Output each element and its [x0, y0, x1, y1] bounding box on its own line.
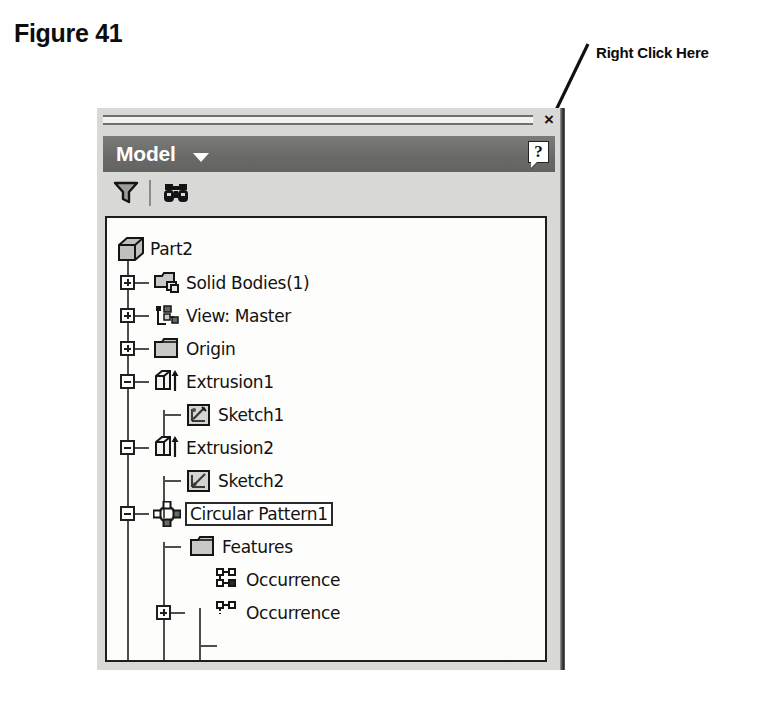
panel-title: Model: [116, 142, 176, 166]
tree-item-occurrence-1[interactable]: Occurrence: [215, 563, 340, 596]
tree-item-view-master[interactable]: View: Master: [153, 299, 291, 332]
tree-connector: [163, 480, 181, 482]
tree-item-origin[interactable]: Origin: [153, 332, 236, 365]
close-icon[interactable]: ×: [541, 112, 557, 128]
expander-extrusion1[interactable]: [120, 374, 135, 389]
tree-connector: [199, 645, 217, 647]
figure-caption: Figure 41: [14, 19, 122, 48]
model-tree-panel: × Model ?: [97, 108, 565, 670]
tree-item-label: Sketch1: [218, 405, 284, 425]
tree-item-occurrence-2[interactable]: Occurrence: [215, 596, 340, 629]
tree-connector: [135, 447, 149, 449]
tree-connector: [135, 348, 149, 350]
tree-item-label: View: Master: [186, 306, 291, 326]
circular-pattern-icon: [153, 501, 181, 527]
tree-item-label: Solid Bodies(1): [186, 273, 309, 293]
tree-connector: [163, 546, 181, 548]
view-master-icon: [153, 303, 181, 329]
tree-item-solid-bodies[interactable]: Solid Bodies(1): [153, 266, 309, 299]
tree-item-circular-pattern1[interactable]: Circular Pattern1: [153, 497, 333, 530]
part-cube-icon: [117, 236, 145, 262]
expander-view-master[interactable]: [120, 308, 135, 323]
extrusion-icon: [153, 435, 181, 461]
tree-connector: [135, 282, 149, 284]
folder-icon: [189, 534, 217, 560]
tree-item-label: Extrusion1: [186, 372, 274, 392]
tree-item-extrusion2[interactable]: Extrusion2: [153, 431, 274, 464]
tree-connector: [171, 612, 185, 614]
occurrence-icon: [215, 600, 241, 626]
tree-connector: [135, 381, 149, 383]
binoculars-icon[interactable]: [161, 178, 191, 208]
expander-solid-bodies[interactable]: [120, 275, 135, 290]
panel-grip-bar[interactable]: [103, 115, 533, 125]
tree-connector: [135, 315, 149, 317]
model-title-bar[interactable]: Model ?: [103, 136, 555, 172]
toolbar-divider: [149, 180, 151, 206]
tree-item-label: Sketch2: [218, 471, 284, 491]
callout-label-right-click-here: Right Click Here: [596, 44, 709, 61]
tree-connector: [135, 513, 149, 515]
chevron-down-icon[interactable]: [193, 153, 209, 162]
panel-toolbar: [103, 174, 555, 212]
tree-item-sketch1[interactable]: Sketch1: [185, 398, 284, 431]
tree-item-label: Part2: [150, 239, 193, 259]
feature-tree[interactable]: Part2 Solid Bodies(1): [105, 216, 547, 662]
sketch-icon: [185, 402, 213, 428]
page-bottom-margin: [0, 670, 767, 706]
tree-connector: [163, 414, 181, 416]
sketch-icon: [185, 468, 213, 494]
expander-origin[interactable]: [120, 341, 135, 356]
feature-tree-inner: Part2 Solid Bodies(1): [107, 218, 545, 660]
expander-extrusion2[interactable]: [120, 440, 135, 455]
tree-item-part2[interactable]: Part2: [117, 232, 193, 265]
tree-item-label-selected: Circular Pattern1: [185, 502, 333, 526]
expander-circular-pattern1[interactable]: [120, 506, 135, 521]
tree-item-label: Features: [222, 537, 293, 557]
folder-icon: [153, 336, 181, 362]
solid-bodies-icon: [153, 270, 181, 296]
tree-item-label: Occurrence: [246, 603, 340, 623]
panel-right-edge: [560, 108, 565, 670]
help-icon[interactable]: ?: [528, 141, 549, 163]
tree-item-label: Extrusion2: [186, 438, 274, 458]
tree-item-label: Origin: [186, 339, 236, 359]
extrusion-icon: [153, 369, 181, 395]
tree-item-sketch2[interactable]: Sketch2: [185, 464, 284, 497]
tree-connector: [163, 542, 165, 662]
tree-connector: [199, 608, 201, 662]
tree-item-label: Occurrence: [246, 570, 340, 590]
tree-item-extrusion1[interactable]: Extrusion1: [153, 365, 274, 398]
tree-item-features[interactable]: Features: [189, 530, 293, 563]
expander-features[interactable]: [156, 605, 171, 620]
filter-icon[interactable]: [111, 178, 141, 208]
occurrence-icon: [215, 567, 241, 593]
